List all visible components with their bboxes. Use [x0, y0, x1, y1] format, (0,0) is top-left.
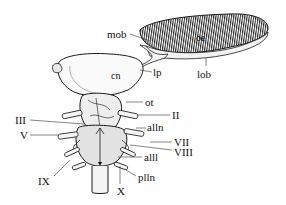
label-X: X	[117, 186, 125, 197]
label-VIII: VIII	[174, 147, 193, 158]
label-cn: cn	[111, 70, 120, 81]
label-III: III	[15, 115, 26, 126]
label-V: V	[20, 130, 28, 141]
label-lp: lp	[153, 67, 162, 78]
brain-diagram: mob oe cn lp lob ot II III alln V VII VI…	[0, 0, 286, 205]
label-plln: plln	[138, 172, 155, 183]
label-II: II	[172, 110, 179, 121]
label-lob: lob	[197, 69, 211, 80]
label-IX: IX	[38, 176, 50, 187]
cerebrum	[52, 53, 143, 95]
label-mob: mob	[107, 29, 127, 40]
spinal-cord	[92, 166, 108, 194]
label-ot: ot	[145, 97, 154, 108]
hindbrain	[73, 125, 128, 166]
label-alll: alll	[144, 152, 158, 163]
label-oe: oe	[196, 32, 205, 43]
label-alln: alln	[147, 122, 164, 133]
